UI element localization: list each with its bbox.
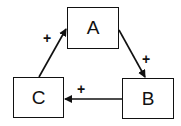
edge-a-to-b-sign: +: [142, 52, 150, 66]
node-c: C: [13, 77, 64, 118]
node-b-label: B: [142, 88, 155, 110]
node-a: A: [67, 7, 119, 49]
node-c-label: C: [32, 87, 46, 109]
edge-b-to-c-sign: +: [77, 82, 85, 96]
node-a-label: A: [87, 17, 100, 39]
edge-c-to-a-sign: +: [43, 31, 51, 45]
causal-loop-diagram: A B C + + +: [0, 0, 181, 126]
node-b: B: [122, 78, 174, 119]
